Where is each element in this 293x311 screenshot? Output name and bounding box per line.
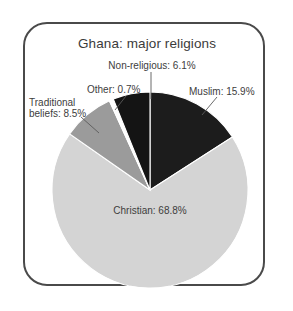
- chart-canvas: Ghana: major religions Non-religious: 6.…: [0, 0, 293, 311]
- pie-slices-group: [52, 92, 248, 288]
- label-muslim: Muslim: 15.9%: [189, 86, 255, 97]
- label-traditional-beliefs-line2: beliefs: 8.5%: [29, 108, 86, 119]
- pie-chart-figure: Ghana: major religions Non-religious: 6.…: [0, 0, 293, 311]
- label-christian: Christian: 68.8%: [113, 205, 186, 216]
- label-non-religious: Non-religious: 6.1%: [108, 60, 195, 71]
- label-traditional-beliefs-line1: Traditional: [29, 97, 75, 108]
- chart-title: Ghana: major religions: [78, 36, 216, 51]
- label-other: Other: 0.7%: [87, 84, 140, 95]
